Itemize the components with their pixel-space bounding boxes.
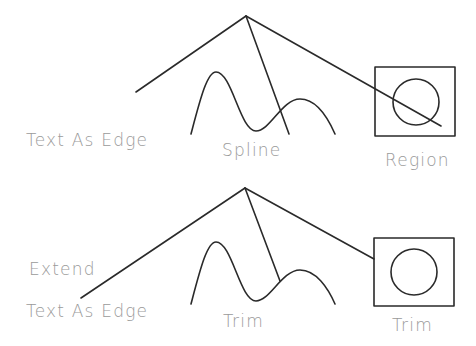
label-text-as-edge-bottom: Text As Edge <box>26 301 148 321</box>
top-middle-edge <box>246 16 289 134</box>
bottom-region-circle <box>391 249 437 295</box>
label-trim-spline: Trim <box>223 311 264 331</box>
bottom-middle-edge-trimmed <box>245 188 280 281</box>
bottom-section: Extend Text As Edge Trim Trim <box>26 188 454 335</box>
top-right-edge <box>246 16 441 126</box>
label-extend: Extend <box>29 259 96 279</box>
top-spline <box>191 72 335 134</box>
label-text-as-edge-top: Text As Edge <box>26 130 148 150</box>
label-trim-region: Trim <box>392 315 433 335</box>
bottom-spline <box>191 242 335 304</box>
top-left-edge <box>136 16 246 92</box>
label-spline: Spline <box>222 140 281 160</box>
top-section: Text As Edge Spline Region <box>26 16 455 170</box>
label-region: Region <box>385 150 450 170</box>
diagram-canvas: Text As Edge Spline Region Extend Text A… <box>0 0 476 346</box>
bottom-right-edge-trimmed <box>245 188 374 259</box>
